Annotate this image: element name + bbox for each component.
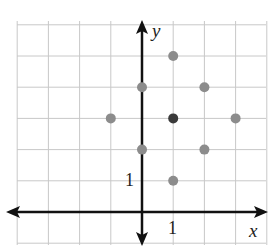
data-point — [199, 145, 209, 155]
data-point — [168, 51, 178, 61]
data-point — [199, 82, 209, 92]
x-axis-label: x — [249, 220, 257, 242]
coordinate-plane — [0, 0, 279, 248]
x-axis — [6, 206, 268, 218]
data-point — [168, 176, 178, 186]
data-point — [106, 113, 116, 123]
data-point — [168, 113, 178, 123]
data-point — [231, 113, 241, 123]
y-axis-label: y — [152, 20, 160, 42]
x-tick-label: 1 — [168, 218, 177, 239]
y-tick-label: 1 — [125, 170, 134, 191]
data-point — [137, 145, 147, 155]
data-point — [137, 82, 147, 92]
